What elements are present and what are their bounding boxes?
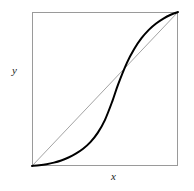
y-axis-label: y — [12, 65, 17, 76]
figure-container: y x — [0, 0, 194, 191]
plot-canvas — [0, 0, 194, 191]
x-axis-label: x — [111, 171, 116, 182]
